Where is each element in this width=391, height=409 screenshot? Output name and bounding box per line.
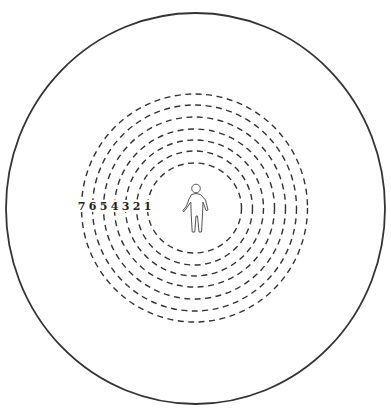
ring-label-7: 7 bbox=[78, 200, 86, 213]
ring-label-4: 4 bbox=[111, 200, 119, 213]
concentric-zones-diagram: 1234567 bbox=[0, 0, 391, 409]
ring-label-1: 1 bbox=[144, 200, 152, 213]
ring-label-group: 1234567 bbox=[77, 200, 152, 213]
ring-label-2: 2 bbox=[133, 200, 141, 213]
person-outline-icon bbox=[183, 184, 208, 232]
ring-label-5: 5 bbox=[100, 200, 108, 213]
ring-label-3: 3 bbox=[122, 200, 130, 213]
ring-label-6: 6 bbox=[89, 200, 97, 213]
